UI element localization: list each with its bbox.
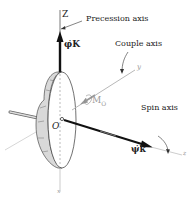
precession-rate-label: φ̇K	[64, 40, 80, 49]
z-axis-small-label: z	[183, 150, 186, 156]
origin-point	[60, 117, 63, 120]
origin-label: O	[52, 122, 59, 131]
precession-axis-label: Precession axis	[86, 15, 148, 23]
spin-axis-label: Spin axis	[141, 104, 178, 112]
x-axis-label: x	[57, 188, 60, 194]
moment-symbol: M	[92, 95, 101, 105]
y-axis-label: y	[137, 64, 141, 71]
couple-axis-label: Couple axis	[115, 40, 162, 48]
z-axis-label: Z	[62, 10, 68, 19]
precession-arrow-head	[57, 31, 64, 42]
moment-subscript: O	[101, 100, 106, 107]
couple-leader-head	[120, 69, 124, 74]
moment-arrow-head	[80, 98, 88, 105]
moment-label: MO	[92, 96, 106, 107]
left-shaft-highlight	[10, 112, 38, 118]
y-axis-lower	[5, 132, 36, 150]
spin-rate-label: ψ̇k	[131, 145, 146, 154]
precession-leader-head	[61, 26, 66, 30]
spin-shaft-highlight	[100, 131, 116, 136]
